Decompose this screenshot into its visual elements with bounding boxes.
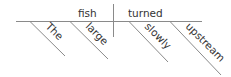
modifier-word-large: large (84, 20, 111, 47)
subject-word: fish (78, 7, 97, 19)
verb-word: turned (128, 7, 163, 19)
modifier-word-slowly: slowly (143, 20, 174, 51)
modifier-word-the: The (43, 19, 66, 42)
sentence-diagram: fish turned The large slowly upstream (0, 0, 231, 77)
modifier-word-upstream: upstream (184, 20, 228, 64)
diagram-svg: fish turned The large slowly upstream (0, 0, 231, 77)
